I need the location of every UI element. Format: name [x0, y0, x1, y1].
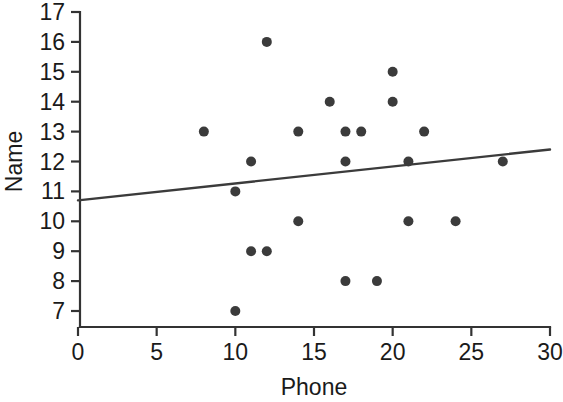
- x-tick-label-20: 20: [380, 339, 406, 365]
- x-tick-label-0: 0: [72, 339, 85, 365]
- y-tick-label-9: 9: [52, 238, 65, 264]
- data-point: [262, 246, 272, 256]
- data-point: [199, 127, 209, 137]
- data-point: [388, 67, 398, 77]
- data-point: [230, 306, 240, 316]
- data-point: [498, 157, 508, 167]
- data-point: [230, 186, 240, 196]
- y-tick-label-7: 7: [52, 298, 65, 324]
- data-point: [419, 127, 429, 137]
- x-tick-label-5: 5: [150, 339, 163, 365]
- y-tick-label-14: 14: [39, 89, 65, 115]
- data-point: [246, 157, 256, 167]
- y-tick-label-17: 17: [39, 0, 65, 25]
- data-point: [293, 216, 303, 226]
- data-point: [340, 127, 350, 137]
- x-axis-tick-labels: 051015202530: [72, 339, 563, 365]
- data-points-layer: [199, 37, 508, 316]
- x-tick-label-10: 10: [223, 339, 249, 365]
- plot-canvas: 7891011121314151617 051015202530 Phone N…: [0, 0, 563, 402]
- y-tick-label-12: 12: [39, 149, 65, 175]
- x-axis: 051015202530: [72, 327, 563, 365]
- y-tick-label-15: 15: [39, 59, 65, 85]
- data-point: [293, 127, 303, 137]
- y-tick-label-8: 8: [52, 268, 65, 294]
- data-point: [262, 37, 272, 47]
- y-tick-label-16: 16: [39, 29, 65, 55]
- trend-line: [78, 150, 550, 201]
- data-point: [340, 276, 350, 286]
- y-axis: 7891011121314151617: [39, 0, 80, 327]
- y-tick-label-10: 10: [39, 208, 65, 234]
- x-tick-label-25: 25: [459, 339, 485, 365]
- data-point: [372, 276, 382, 286]
- y-tick-label-13: 13: [39, 119, 65, 145]
- y-axis-tick-marks: [71, 12, 80, 311]
- data-point: [246, 246, 256, 256]
- data-point: [356, 127, 366, 137]
- x-tick-label-30: 30: [537, 339, 563, 365]
- y-tick-label-11: 11: [41, 178, 65, 204]
- x-axis-tick-marks: [78, 327, 550, 336]
- data-point: [340, 157, 350, 167]
- x-axis-title: Phone: [281, 374, 348, 400]
- scatter-plot-figure: 7891011121314151617 051015202530 Phone N…: [0, 0, 563, 402]
- y-axis-title: Name: [1, 131, 27, 192]
- data-point: [451, 216, 461, 226]
- data-point: [388, 97, 398, 107]
- data-point: [403, 216, 413, 226]
- data-point: [325, 97, 335, 107]
- y-axis-tick-labels: 7891011121314151617: [39, 0, 65, 324]
- x-tick-label-15: 15: [301, 339, 327, 365]
